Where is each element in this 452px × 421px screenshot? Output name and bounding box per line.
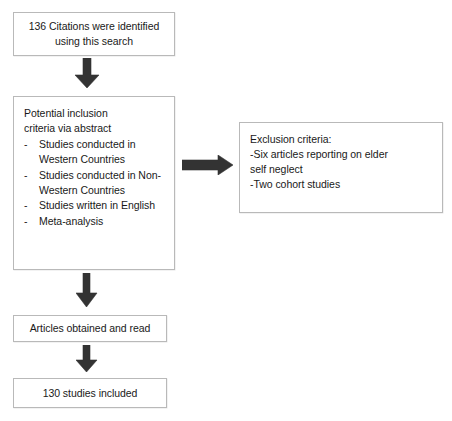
inclusion-criteria-item-text: Studies conducted in Western Countries	[39, 138, 135, 165]
list-item: - Meta-analysis	[24, 214, 165, 229]
inclusion-criteria-list: - Studies conducted in Western Countries…	[24, 137, 165, 229]
bullet-dash-icon: -	[24, 198, 27, 213]
arrow-right-inclusion-to-exclusion	[182, 155, 234, 175]
bullet-dash-icon: -	[24, 137, 27, 152]
node-articles-obtained: Articles obtained and read	[13, 315, 167, 342]
arrow-down-identified-to-inclusion	[74, 58, 100, 89]
inclusion-criteria-item-text: Studies written in English	[39, 199, 155, 211]
node-citations-identified: 136 Citations were identified using this…	[13, 12, 175, 56]
inclusion-heading-line-2: criteria via abstract	[24, 121, 165, 136]
exclusion-criteria-line-2: self neglect	[250, 162, 433, 177]
exclusion-criteria-heading: Exclusion criteria:	[250, 132, 433, 147]
inclusion-criteria-item-text: Studies conducted in Non-Western Countri…	[39, 169, 161, 196]
node-exclusion-criteria: Exclusion criteria: -Six articles report…	[239, 122, 443, 213]
bullet-dash-icon: -	[24, 214, 27, 229]
exclusion-criteria-line-1: -Six articles reporting on elder	[250, 147, 433, 162]
citations-identified-line-2: using this search	[55, 35, 133, 47]
node-inclusion-criteria: Potential inclusion criteria via abstrac…	[13, 96, 175, 270]
arrow-down-obtained-to-included	[76, 345, 98, 373]
articles-obtained-label: Articles obtained and read	[30, 321, 151, 336]
exclusion-criteria-line-3: -Two cohort studies	[250, 177, 433, 192]
citations-identified-line-1: 136 Citations were identified	[29, 20, 159, 32]
list-item: - Studies conducted in Non-Western Count…	[24, 168, 165, 198]
bullet-dash-icon: -	[24, 168, 27, 183]
inclusion-heading-line-1: Potential inclusion	[24, 106, 165, 121]
flowchart-canvas: 136 Citations were identified using this…	[0, 0, 452, 421]
arrow-down-inclusion-to-obtained	[76, 273, 98, 308]
node-studies-included: 130 studies included	[13, 378, 167, 408]
list-item: - Studies written in English	[24, 198, 165, 213]
studies-included-label: 130 studies included	[43, 386, 138, 401]
inclusion-criteria-item-text: Meta-analysis	[39, 215, 103, 227]
inclusion-criteria-heading: Potential inclusion criteria via abstrac…	[24, 106, 165, 136]
list-item: - Studies conducted in Western Countries	[24, 137, 165, 167]
node-citations-identified-text: 136 Citations were identified using this…	[14, 19, 174, 49]
